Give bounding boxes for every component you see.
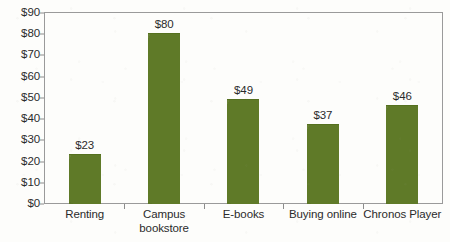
plot-area: $23$80$49$37$46	[45, 13, 442, 204]
y-axis-tick-label: $30	[0, 135, 40, 147]
x-axis-tick-mark	[124, 204, 125, 209]
y-axis-tick-label: $0	[0, 198, 40, 210]
y-axis-tick-label: $50	[0, 92, 40, 104]
y-axis-tick-label: $40	[0, 113, 40, 125]
x-axis-category-label-line: Renting	[65, 208, 104, 222]
y-axis-tick-label: $70	[0, 50, 40, 62]
y-axis-tick-mark	[40, 55, 44, 56]
y-axis: $0$10$20$30$40$50$60$70$80$90	[0, 0, 40, 242]
bar-group: $23	[45, 13, 124, 204]
y-axis-tick-mark	[40, 140, 44, 141]
x-axis-category-label: Campusbookstore	[139, 208, 189, 235]
bar	[148, 33, 180, 204]
y-axis-tick-mark	[40, 161, 44, 162]
x-axis-category-label-line: Buying online	[289, 208, 357, 222]
bar-value-label: $49	[234, 85, 253, 97]
bar-group: $37	[283, 13, 362, 204]
bar	[386, 105, 418, 204]
x-axis-category-label-line: Chronos Player	[363, 208, 441, 222]
x-axis-category-label: Buying online	[289, 208, 357, 222]
y-axis-tick-mark	[40, 13, 44, 14]
y-axis-tick-label: $80	[0, 28, 40, 40]
y-axis-tick-label: $90	[0, 7, 40, 19]
y-axis-tick-mark	[40, 182, 44, 183]
x-axis-category-label-line: bookstore	[139, 222, 189, 236]
y-axis-tick-mark	[40, 119, 44, 120]
bar-group: $49	[204, 13, 283, 204]
x-axis-category-label: Chronos Player	[363, 208, 441, 222]
bar-chart: $0$10$20$30$40$50$60$70$80$90 $23$80$49$…	[0, 0, 450, 242]
bar-value-label: $23	[75, 140, 94, 152]
y-axis-tick-label: $20	[0, 156, 40, 168]
x-axis-category-label-line: E-books	[223, 208, 265, 222]
bar-value-label: $46	[393, 91, 412, 103]
y-axis-tick-mark	[40, 204, 44, 205]
x-axis-category-label-line: Campus	[139, 208, 189, 222]
bar	[69, 154, 101, 204]
bar-group: $80	[124, 13, 203, 204]
bar	[227, 99, 259, 204]
y-axis-tick-mark	[40, 76, 44, 77]
bar-group: $46	[363, 13, 442, 204]
x-axis-tick-mark	[363, 204, 364, 209]
x-axis-tick-mark	[283, 204, 284, 209]
bar-value-label: $37	[313, 110, 332, 122]
y-axis-tick-mark	[40, 34, 44, 35]
y-axis-tick-label: $10	[0, 177, 40, 189]
x-axis-category-label: Renting	[65, 208, 104, 222]
bar-value-label: $80	[155, 19, 174, 31]
bar	[307, 124, 339, 204]
x-axis: RentingCampusbookstoreE-booksBuying onli…	[44, 208, 443, 242]
y-axis-tick-mark	[40, 97, 44, 98]
x-axis-tick-mark	[204, 204, 205, 209]
y-axis-tick-label: $60	[0, 71, 40, 83]
x-axis-category-label: E-books	[223, 208, 265, 222]
